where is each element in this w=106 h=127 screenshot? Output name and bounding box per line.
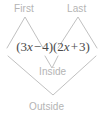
minus-operator: − bbox=[33, 39, 42, 54]
plus-operator: + bbox=[70, 39, 79, 54]
foil-diagram: First Last Inside Outside (3x−4)(2x+3) bbox=[0, 0, 106, 127]
label-outside: Outside bbox=[29, 101, 64, 112]
variable-x-2: x bbox=[64, 39, 70, 54]
label-first: First bbox=[14, 3, 34, 14]
variable-x-1: x bbox=[27, 39, 33, 54]
close-paren-2: ) bbox=[85, 39, 89, 54]
label-inside: Inside bbox=[39, 66, 66, 77]
label-last: Last bbox=[67, 3, 86, 14]
binomial-product-expression: (3x−4)(2x+3) bbox=[0, 39, 106, 55]
